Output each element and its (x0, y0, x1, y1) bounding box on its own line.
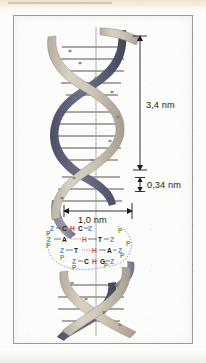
base-pair-row-2: Z A H T Z (47, 236, 114, 243)
scan-bottom-smudge (0, 348, 206, 363)
row3-left-base: T (74, 247, 78, 254)
phosphate-label-2: P (46, 242, 51, 249)
row1-left-sugar: Z (50, 225, 54, 232)
phosphate-label-8: P (104, 262, 109, 269)
row2-left-base: A (62, 236, 67, 243)
row2-right-sugar: Z (110, 236, 114, 243)
phosphate-label-4: P (72, 264, 77, 271)
dimension-pitch-label: 3,4 nm (146, 100, 175, 110)
phosphate-label-3: P (60, 254, 65, 261)
dimension-diameter-label: 1,0 nm (78, 215, 107, 225)
row1-right-base: C (78, 225, 83, 232)
dimension-rise-label: 0,34 nm (147, 180, 181, 190)
row2-right-base: T (98, 236, 102, 243)
dimension-pitch: 3,4 nm (133, 35, 175, 171)
phosphate-label-6: P (126, 240, 131, 247)
row4-right-sugar: Z (110, 258, 114, 265)
phosphate-label-1: P (46, 230, 51, 237)
dna-double-helix-figure: 3,4 nm 0,34 nm 1,0 nm (0, 0, 206, 363)
row1-right-sugar: Z (88, 225, 92, 232)
row4-left-base: C (84, 258, 89, 265)
dimension-rise: 0,34 nm (135, 177, 181, 192)
row1-left-base: C (62, 225, 67, 232)
phosphate-label-7: P (120, 252, 125, 259)
base-pair-row-1: Z C H C Z (50, 225, 92, 232)
dimension-diameter: 1,0 nm (63, 203, 133, 225)
row1-hbond: H (70, 225, 75, 232)
base-pair-detail: Z C H C Z Z A H T Z (46, 225, 132, 272)
row4-hbond: H (92, 258, 97, 265)
row3-left-sugar: Z (60, 247, 64, 254)
row3-right-base: A (107, 247, 112, 254)
base-pair-row-3: Z T H A Z (60, 247, 122, 254)
phosphate-label-5: P (118, 227, 123, 234)
row2-hbond: H (82, 236, 87, 243)
row3-hbond: H (92, 247, 97, 254)
